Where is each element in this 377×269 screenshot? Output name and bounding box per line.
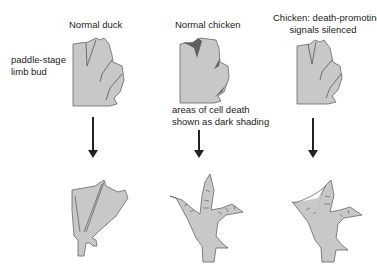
arrow-icon [308, 118, 318, 158]
chicken-limb-bud [180, 38, 229, 103]
limb-diagram [0, 0, 377, 269]
silenced-chicken-foot [292, 180, 362, 262]
duck-limb-bud [73, 38, 124, 106]
chicken-foot [170, 174, 243, 262]
arrow-icon [194, 130, 204, 158]
silenced-limb-bud [297, 40, 342, 104]
duck-webbed-foot [72, 180, 128, 256]
arrow-icon [88, 117, 98, 158]
